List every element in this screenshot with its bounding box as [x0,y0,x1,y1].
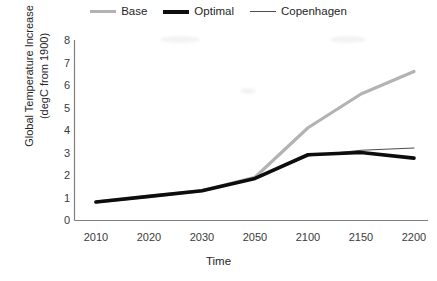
series-group [96,72,414,203]
y-tick-label: 5 [48,102,70,113]
y-tick-label: 4 [48,125,70,136]
x-tick-label: 2010 [73,232,119,243]
x-tick-label: 2020 [126,232,172,243]
x-tick-label: 2200 [391,232,437,243]
series-line-base [96,72,414,203]
y-tick-label: 1 [48,192,70,203]
y-tick-label: 6 [48,80,70,91]
line-chart-figure: Base Optimal Copenhagen 876543210 201020… [0,0,437,281]
series-line-optimal [96,153,414,203]
y-tick-label: 0 [48,215,70,226]
y-tick-label: 7 [48,57,70,68]
x-axis-title: Time [0,255,437,267]
x-tick-label: 2100 [285,232,331,243]
x-tick-label: 2050 [232,232,278,243]
y-tick-label: 2 [48,170,70,181]
x-tick-label: 2150 [338,232,384,243]
y-tick-label: 3 [48,147,70,158]
x-tick-label: 2030 [179,232,225,243]
series-line-copenhagen [96,148,414,202]
x-axis-title-text: Time [206,255,231,267]
y-tick-label: 8 [48,35,70,46]
plot-area: 876543210 2010202020302050210021502200 [0,0,437,281]
